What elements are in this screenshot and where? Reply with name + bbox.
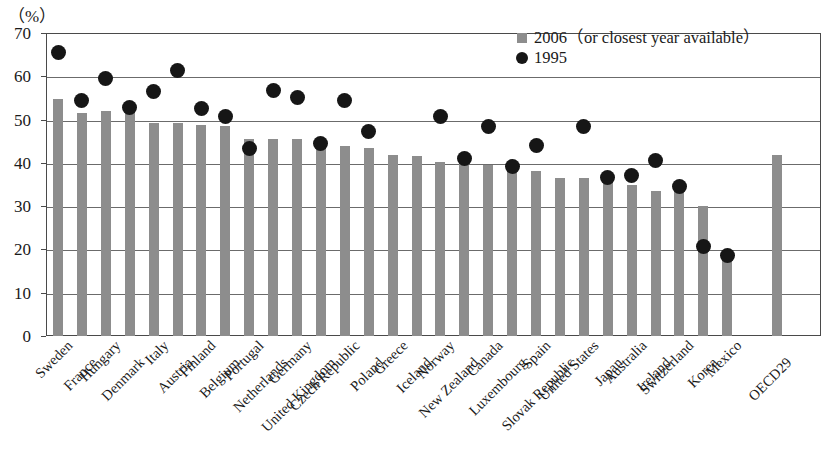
dot-luxembourg [505,159,520,174]
y-axis-tick-label: 10 [0,284,31,301]
dot-austria [170,63,185,78]
dot-spain [529,138,544,153]
x-axis-label-spain: Spain [520,338,554,372]
bar-spain [531,171,541,336]
dot-japan [600,170,615,185]
bar-portugal [244,139,254,336]
bar-slovak-republic [555,178,565,336]
legend-entry-1995: 1995 [517,48,760,68]
x-axis-label-oecd29: OECD29 [746,355,794,403]
bar-mexico [722,255,732,336]
dot-belgium [218,109,233,124]
dot-mexico [720,248,735,263]
bar-sweden [53,99,63,336]
dot-sweden [51,45,66,60]
dot-hungary [98,71,113,86]
dot-australia [624,168,639,183]
dot-united-kingdom [313,136,328,151]
bar-hungary [101,111,111,336]
bar-japan [603,182,613,336]
bar-italy [149,123,159,336]
bar-australia [627,185,637,336]
dot-switzerland [672,179,687,194]
y-axis-tick-label: 0 [0,328,31,345]
bar-germany [292,139,302,336]
bar-finland [196,125,206,336]
chart-container: （%） 010203040506070 SwedenFranceHungaryD… [0,0,833,465]
bar-greece [388,155,398,336]
legend-square-icon [517,33,527,43]
bar-austria [173,123,183,336]
dot-poland [361,124,376,139]
legend-entry-2006: 2006（or closest year available） [517,28,760,48]
bar-canada [483,165,493,336]
bar-france [77,113,87,336]
dot-netherlands [266,83,281,98]
y-axis-tick-label: 20 [0,241,31,258]
y-axis-tick-label: 60 [0,68,31,85]
bar-switzerland [674,191,684,336]
dot-new-zealand [457,151,472,166]
dot-czech-republic [337,93,352,108]
dot-korea [696,239,711,254]
bar-poland [364,148,374,336]
bar-netherlands [268,139,278,336]
legend-label-2006: 2006（or closest year available） [534,28,760,48]
dot-ireland [648,153,663,168]
y-axis-tick-label: 40 [0,154,31,171]
legend-label-1995: 1995 [534,48,567,68]
bar-new-zealand [459,163,469,336]
bar-belgium [220,126,230,336]
bar-iceland [412,156,422,336]
dot-canada [481,119,496,134]
bar-luxembourg [507,168,517,336]
bar-united-kingdom [316,144,326,336]
dot-germany [290,90,305,105]
bar-denmark [125,112,135,336]
bar-united-states [579,178,589,336]
y-axis-tick [41,336,46,337]
y-axis-tick-label: 30 [0,198,31,215]
bar-korea [698,206,708,336]
y-axis-tick-label: 70 [0,25,31,42]
series-layer [46,33,821,336]
bar-norway [435,162,445,336]
x-axis-label-italy: Italy [142,338,171,367]
x-axis-labels: SwedenFranceHungaryDenmarkItalyAustriaFi… [46,338,833,463]
dot-france [74,93,89,108]
dot-norway [433,109,448,124]
legend: 2006（or closest year available） 1995 [517,28,760,68]
dot-portugal [242,141,257,156]
dot-finland [194,101,209,116]
bar-czech-republic [340,146,350,336]
legend-circle-icon [516,52,528,64]
bar-ireland [651,191,661,336]
dot-united-states [576,119,591,134]
dot-denmark [122,100,137,115]
bar-oecd29 [772,155,782,336]
y-axis-tick-label: 50 [0,111,31,128]
dot-italy [146,84,161,99]
